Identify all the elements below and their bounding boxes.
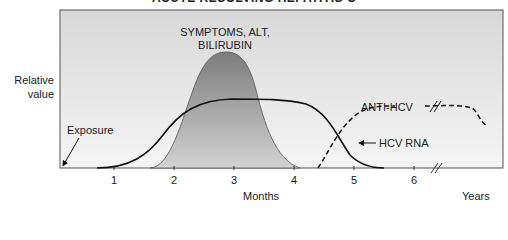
y-axis-label-line1: Relative — [6, 73, 54, 87]
symptoms-label-line2: BILIRUBIN — [150, 39, 300, 52]
y-axis-label-line2: value — [6, 87, 54, 101]
exposure-label: Exposure — [67, 124, 113, 136]
x-tick-label: 5 — [347, 174, 361, 186]
x-tick-label: 6 — [407, 174, 421, 186]
x-tick-label: 4 — [287, 174, 301, 186]
x-tick-label: 3 — [227, 174, 241, 186]
symptoms-label-line1: SYMPTOMS, ALT, — [150, 26, 300, 39]
years-label: Years — [462, 190, 490, 202]
y-axis-label: Relative value — [6, 73, 54, 101]
x-axis-label: Months — [243, 190, 279, 202]
x-tick-label: 2 — [167, 174, 181, 186]
hcv-rna-label: HCV RNA — [379, 137, 429, 149]
x-tick-label: 1 — [107, 174, 121, 186]
anti-hcv-label: ANTI-HCV — [361, 101, 413, 113]
symptoms-annotation: SYMPTOMS, ALT, BILIRUBIN — [150, 26, 300, 52]
